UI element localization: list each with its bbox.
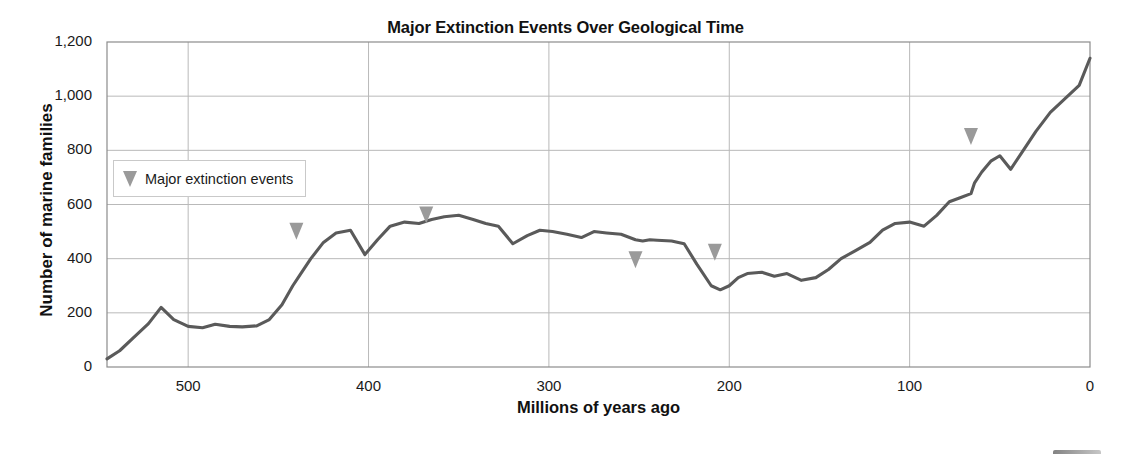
triangle-down-icon: [123, 171, 137, 187]
x-tick-label: 300: [514, 377, 584, 394]
x-tick-label: 400: [334, 377, 404, 394]
legend: Major extinction events: [113, 160, 306, 197]
y-tick-label: 1,000: [8, 86, 92, 103]
legend-item-label: Major extinction events: [145, 171, 293, 187]
x-tick-label: 500: [153, 377, 223, 394]
extinction-event-markers: [289, 128, 978, 268]
y-tick-label: 600: [8, 195, 92, 212]
chart-figure: Major Extinction Events Over Geological …: [0, 0, 1131, 458]
data-line-marine-families: [107, 58, 1090, 359]
y-tick-label: 200: [8, 303, 92, 320]
triangle-down-icon: [964, 128, 978, 145]
y-tick-label: 800: [8, 140, 92, 157]
x-tick-label: 100: [875, 377, 945, 394]
y-tick-label: 400: [8, 249, 92, 266]
y-tick-label: 0: [8, 357, 92, 374]
y-tick-label: 1,200: [8, 32, 92, 49]
triangle-down-icon: [628, 251, 642, 268]
scan-artifact: [1053, 450, 1101, 454]
x-tick-label: 200: [694, 377, 764, 394]
x-tick-label: 0: [1055, 377, 1125, 394]
triangle-down-icon: [289, 223, 303, 240]
gridlines: [107, 42, 1090, 367]
